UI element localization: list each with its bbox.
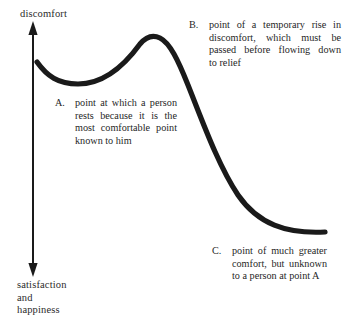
callout-c-text: point of much greater comfort, but unkno…	[232, 245, 327, 283]
callout-a: A. point at which a person rests because…	[55, 97, 177, 147]
callout-a-line-3: most comfortable point	[75, 122, 177, 135]
callout-c-line-1: point of much greater	[232, 245, 327, 258]
callout-a-line-4: known to him	[75, 135, 177, 148]
callout-b-line-2: discomfort, which must be	[209, 32, 341, 45]
callout-a-line-2: rests because it is the	[75, 110, 177, 123]
callout-a-text: point at which a person rests because it…	[75, 97, 177, 147]
callout-c: C. point of much greater comfort, but un…	[212, 245, 327, 283]
callout-c-line-2: comfort, but unknown	[232, 258, 327, 271]
callout-b-text: point of a temporary rise in discomfort,…	[209, 19, 341, 69]
axis-arrowhead-down	[28, 263, 37, 277]
callout-a-marker: A.	[55, 97, 70, 110]
callout-b-line-4: to relief	[209, 57, 341, 70]
vertical-axis-arrow	[18, 18, 50, 280]
axis-arrowhead-up	[28, 21, 37, 35]
callout-b-line-1: point of a temporary rise in	[209, 19, 341, 32]
callout-c-marker: C.	[212, 245, 227, 258]
callout-c-line-3: to a person at point A	[232, 270, 327, 283]
axis-bottom-label: satisfaction and happiness	[17, 279, 67, 317]
callout-b-line-3: passed before flowing down	[209, 44, 341, 57]
diagram-canvas: discomfort satisfaction and happiness A.…	[0, 0, 349, 323]
callout-b: B. point of a temporary rise in discomfo…	[189, 19, 341, 69]
callout-a-line-1: point at which a person	[75, 97, 177, 110]
callout-b-marker: B.	[189, 19, 204, 32]
